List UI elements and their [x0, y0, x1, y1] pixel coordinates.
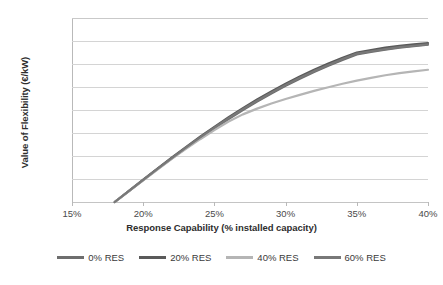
series-curves — [72, 18, 428, 202]
x-tick-mark — [143, 202, 144, 206]
x-tick-label: 20% — [120, 208, 166, 219]
legend-label: 20% RES — [170, 252, 211, 263]
gridline — [72, 202, 428, 203]
x-tick-mark — [357, 202, 358, 206]
legend-item[interactable]: 20% RES — [139, 252, 211, 263]
x-tick-label: 30% — [263, 208, 309, 219]
x-axis-title: Response Capability (% installed capacit… — [0, 222, 443, 233]
chart-legend: 0% RES20% RES40% RES60% RES — [0, 252, 443, 263]
x-tick-mark — [286, 202, 287, 206]
x-tick-mark — [214, 202, 215, 206]
series-line — [115, 44, 428, 202]
legend-label: 40% RES — [257, 252, 298, 263]
legend-item[interactable]: 60% RES — [314, 252, 386, 263]
legend-item[interactable]: 0% RES — [57, 252, 124, 263]
legend-line-icon — [139, 256, 166, 259]
figure-caption — [0, 274, 443, 285]
series-line — [115, 43, 428, 202]
x-tick-mark — [428, 202, 429, 206]
legend-line-icon — [314, 256, 341, 259]
plot-area: 02004006008001,0001,2001,4001,600 15%20%… — [72, 18, 428, 202]
legend-label: 60% RES — [345, 252, 386, 263]
legend-label: 0% RES — [88, 252, 124, 263]
x-tick-label: 40% — [405, 208, 443, 219]
series-line — [115, 70, 428, 202]
legend-line-icon — [57, 256, 84, 259]
legend-line-icon — [226, 256, 253, 259]
x-tick-label: 25% — [191, 208, 237, 219]
x-tick-mark — [72, 202, 73, 206]
x-tick-label: 15% — [49, 208, 95, 219]
legend-item[interactable]: 40% RES — [226, 252, 298, 263]
chart-figure: Value of Flexibility (€/kW) 020040060080… — [0, 0, 443, 285]
y-axis-title: Value of Flexibility (€/kW) — [19, 18, 30, 208]
x-tick-label: 35% — [334, 208, 380, 219]
series-line — [115, 45, 428, 202]
